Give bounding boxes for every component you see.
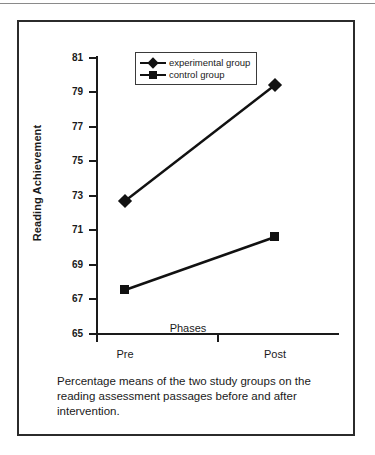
x-tick-label-pre: Pre: [90, 348, 160, 360]
page-top-rule: [0, 3, 375, 4]
y-tick-label-73: 73: [57, 191, 83, 201]
y-tick-label-71: 71: [57, 225, 83, 235]
chart-legend: experimental group control group: [135, 52, 257, 85]
y-tick-label-67: 67: [57, 294, 83, 304]
legend-swatch-diamond-icon: [140, 57, 166, 68]
figure-caption: Percentage means of the two study groups…: [19, 362, 357, 419]
y-tick-label-81: 81: [57, 53, 83, 63]
x-tick-label-post: Post: [240, 348, 310, 360]
series-line-control-group: [125, 237, 275, 290]
figure-frame: 81 79 77 75 73 71 69 67 65 Reading Achie…: [17, 20, 355, 436]
legend-label-experimental-group: experimental group: [166, 57, 250, 68]
y-tick-label-79: 79: [57, 87, 83, 97]
data-point-control-pre: [120, 285, 129, 294]
legend-swatch-square-icon: [140, 69, 166, 80]
y-tick-label-75: 75: [57, 156, 83, 166]
y-axis-ticks: [89, 58, 97, 334]
legend-entry-experimental-group: experimental group: [140, 57, 250, 68]
y-tick-label-69: 69: [57, 260, 83, 270]
y-axis-title: Reading Achievement: [31, 103, 43, 263]
y-tick-label-77: 77: [57, 122, 83, 132]
data-point-control-post: [270, 232, 279, 241]
series-line-experimental-group: [125, 85, 275, 201]
chart-plot-area: 81 79 77 75 73 71 69 67 65 Reading Achie…: [19, 22, 357, 362]
legend-entry-control-group: control group: [140, 69, 250, 80]
x-axis-ticks: [97, 334, 218, 342]
x-axis-title: Phases: [19, 322, 357, 334]
legend-label-control-group: control group: [166, 69, 224, 80]
